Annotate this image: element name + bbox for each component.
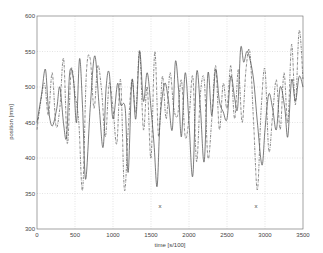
y-axis-ticks: 300350400450500550600 — [25, 13, 36, 232]
series-lines — [37, 30, 303, 191]
y-tick-label: 400 — [25, 155, 36, 161]
x-tick-label: 3000 — [258, 232, 272, 238]
y-axis-label: position [mm] — [8, 104, 14, 140]
line-chart: 0500100015002000250030003500 30035040045… — [0, 0, 323, 253]
y-tick-label: 500 — [25, 84, 36, 90]
y-tick-label: 300 — [25, 226, 36, 232]
annotations: xx — [159, 203, 258, 209]
x-tick-label: 2500 — [220, 232, 234, 238]
x-tick-label: 0 — [35, 232, 39, 238]
grid-lines — [37, 16, 303, 229]
x-tick-label: 1000 — [106, 232, 120, 238]
x-axis-ticks: 0500100015002000250030003500 — [35, 232, 310, 238]
x-tick-label: 3500 — [296, 232, 310, 238]
y-tick-label: 350 — [25, 191, 36, 197]
x-axis-label: time [s/100] — [154, 242, 185, 248]
y-tick-label: 550 — [25, 49, 36, 55]
y-tick-label: 450 — [25, 120, 36, 126]
series-line-dash-dot — [37, 30, 303, 191]
annotation-marker: x — [254, 203, 257, 209]
x-tick-label: 1500 — [144, 232, 158, 238]
x-tick-label: 2000 — [182, 232, 196, 238]
x-tick-label: 500 — [70, 232, 81, 238]
series-line-solid — [37, 46, 303, 186]
y-tick-label: 600 — [25, 13, 36, 19]
annotation-marker: x — [159, 203, 162, 209]
